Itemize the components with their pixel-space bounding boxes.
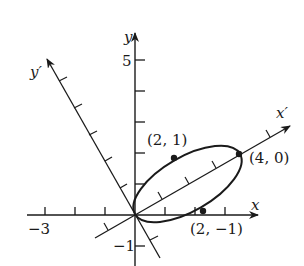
x-prime-axis-label: x′	[276, 104, 288, 122]
y-tick-label-5: 5	[122, 52, 132, 70]
x-tick-label-neg3: −3	[28, 220, 50, 238]
x-axis-label: x	[251, 196, 260, 214]
y-prime-axis-label: y′	[29, 63, 42, 81]
y-axis	[135, 33, 145, 266]
point-label-2-1: (2, 1)	[147, 131, 187, 149]
diagram-canvas: y y′ x′ x 5 −1 −3 (2, 1) (4, 0) (2, −1)	[0, 0, 304, 266]
point-2-1	[171, 155, 177, 161]
y-prime-axis	[47, 59, 160, 258]
y-axis-label: y	[123, 28, 133, 46]
y-tick-label-neg1: −1	[113, 237, 135, 255]
point-2-neg1	[200, 208, 206, 214]
point-4-0	[236, 151, 242, 157]
point-label-4-0: (4, 0)	[249, 149, 289, 167]
point-label-2-neg1: (2, −1)	[190, 220, 243, 238]
